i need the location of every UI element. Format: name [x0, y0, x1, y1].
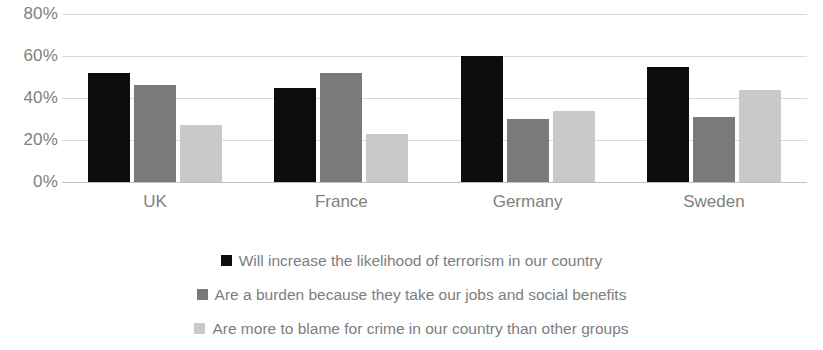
bar [647, 67, 689, 183]
bar [507, 119, 549, 182]
legend-label: Are a burden because they take our jobs … [215, 286, 627, 303]
bar [134, 85, 176, 182]
legend-item-inner: Are a burden because they take our jobs … [197, 286, 627, 303]
legend-swatch-icon [197, 289, 208, 300]
bar-group [88, 14, 222, 182]
bar-group [647, 14, 781, 182]
x-axis-category-label: France [251, 192, 431, 212]
y-axis-tick-label: 80% [2, 5, 58, 22]
bar [739, 90, 781, 182]
y-axis: 80%60%40%20%0% [0, 0, 58, 200]
bar [180, 125, 222, 182]
bar [320, 73, 362, 182]
legend-item-inner: Will increase the likelihood of terroris… [221, 252, 603, 269]
bar [88, 73, 130, 182]
y-axis-tick-label: 20% [2, 131, 58, 148]
grouped-bar-chart: 80%60%40%20%0% Will increase the likelih… [0, 0, 823, 350]
legend-swatch-icon [221, 255, 232, 266]
legend-item[interactable]: Are a burden because they take our jobs … [0, 277, 823, 311]
x-axis-line [62, 182, 807, 183]
bar [366, 134, 408, 182]
bar [693, 117, 735, 182]
y-axis-tick-label: 0% [2, 173, 58, 190]
bar [553, 111, 595, 182]
x-axis-category-label: Sweden [624, 192, 804, 212]
bar [274, 88, 316, 183]
legend-label: Will increase the likelihood of terroris… [239, 252, 603, 269]
y-axis-tick-label: 60% [2, 47, 58, 64]
x-axis-category-label: Germany [438, 192, 618, 212]
y-axis-tick-label: 40% [2, 89, 58, 106]
plot-area [62, 14, 807, 182]
chart-legend: Will increase the likelihood of terroris… [0, 243, 823, 345]
legend-item[interactable]: Will increase the likelihood of terroris… [0, 243, 823, 277]
bar-group [274, 14, 408, 182]
legend-item[interactable]: Are more to blame for crime in our count… [0, 311, 823, 345]
legend-swatch-icon [194, 323, 205, 334]
bar-group [461, 14, 595, 182]
legend-item-inner: Are more to blame for crime in our count… [194, 320, 628, 337]
x-axis-category-label: UK [65, 192, 245, 212]
bar [461, 56, 503, 182]
legend-label: Are more to blame for crime in our count… [212, 320, 628, 337]
